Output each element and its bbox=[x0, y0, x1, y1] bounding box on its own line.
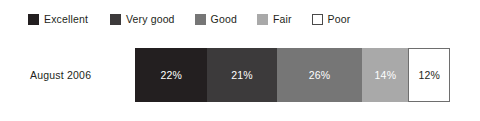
bar-segment-value-label: 26% bbox=[309, 69, 331, 81]
legend-swatch-icon bbox=[110, 14, 121, 25]
bar-segment-good[interactable]: 26% bbox=[277, 48, 363, 102]
bar-segment-very-good[interactable]: 21% bbox=[207, 48, 276, 102]
chart-plot-area: August 2006 22%21%26%14%12% bbox=[0, 48, 480, 102]
bar-segment-poor[interactable]: 12% bbox=[408, 48, 450, 102]
bar-segment-value-label: 21% bbox=[231, 69, 253, 81]
bar-segment-fair[interactable]: 14% bbox=[362, 48, 408, 102]
legend-swatch-icon bbox=[195, 14, 206, 25]
chart-legend: ExcellentVery goodGoodFairPoor bbox=[28, 10, 350, 28]
legend-item-good[interactable]: Good bbox=[195, 10, 237, 28]
legend-item-poor[interactable]: Poor bbox=[312, 10, 351, 28]
legend-item-label: Good bbox=[211, 14, 237, 25]
bar-category-label: August 2006 bbox=[30, 48, 130, 102]
bar-segment-value-label: 12% bbox=[418, 69, 440, 81]
bar-segment-value-label: 22% bbox=[160, 69, 182, 81]
legend-item-label: Excellent bbox=[44, 14, 88, 25]
bar-segment-value-label: 14% bbox=[375, 69, 397, 81]
legend-swatch-icon bbox=[28, 14, 39, 25]
legend-swatch-icon bbox=[312, 14, 323, 25]
legend-swatch-icon bbox=[257, 14, 268, 25]
stacked-bar: 22%21%26%14%12% bbox=[135, 48, 450, 102]
legend-item-very-good[interactable]: Very good bbox=[110, 10, 175, 28]
legend-item-excellent[interactable]: Excellent bbox=[28, 10, 88, 28]
legend-item-label: Fair bbox=[273, 14, 292, 25]
bar-segment-excellent[interactable]: 22% bbox=[135, 48, 207, 102]
legend-item-fair[interactable]: Fair bbox=[257, 10, 292, 28]
legend-item-label: Very good bbox=[126, 14, 175, 25]
legend-item-label: Poor bbox=[328, 14, 351, 25]
